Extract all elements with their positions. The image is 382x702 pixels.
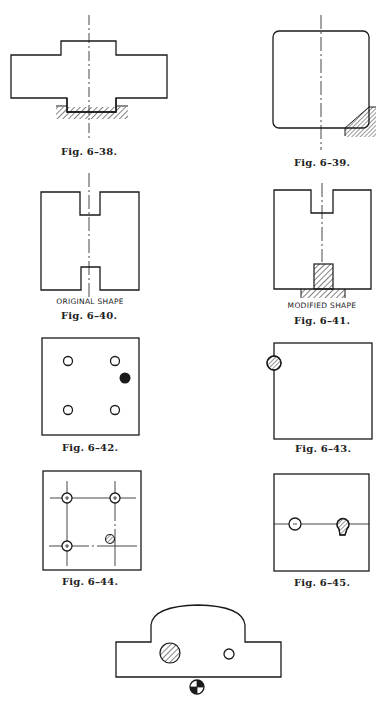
hatched-pin	[106, 535, 115, 544]
fig-6-42-caption: Fig. 6–42.	[62, 442, 118, 453]
center-of-gravity-symbol	[190, 680, 204, 694]
fig-6-40-drawing	[41, 173, 139, 298]
fig-6-41-label: MODIFIED SHAPE	[288, 301, 357, 310]
filled-locator	[120, 373, 131, 384]
fig-6-45-drawing	[274, 474, 369, 571]
fig-6-40-caption: Fig. 6–40.	[61, 310, 117, 321]
fig-6-44-drawing	[43, 471, 141, 570]
fig-6-39-drawing	[273, 15, 376, 150]
fig-6-39-caption: Fig. 6–39.	[294, 157, 350, 168]
fig-6-38-caption: Fig. 6–38.	[61, 146, 117, 157]
fig-6-40-label: ORIGINAL SHAPE	[56, 297, 124, 306]
fig-6-41-caption: Fig. 6–41.	[294, 315, 350, 326]
fig-6-41-drawing	[274, 183, 371, 298]
fig-6-45-caption: Fig. 6–45.	[294, 577, 350, 588]
fig-6-38-drawing	[11, 15, 167, 140]
fig-6-43-drawing	[267, 343, 372, 439]
fig-6-44-caption: Fig. 6–44.	[62, 576, 118, 587]
hatched-pin	[160, 643, 180, 663]
fig-6-46-drawing	[116, 605, 281, 694]
fig-6-42-drawing	[42, 338, 139, 435]
fig-6-43-caption: Fig. 6–43.	[295, 443, 351, 454]
figure-page	[0, 0, 382, 702]
